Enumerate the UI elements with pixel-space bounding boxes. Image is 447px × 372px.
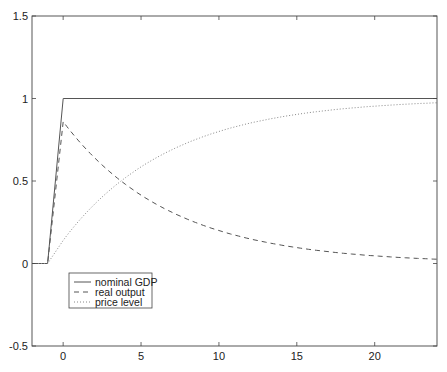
legend-label-price-level: price level bbox=[95, 296, 142, 308]
x-tick-label: 10 bbox=[213, 350, 225, 362]
y-tick-label: 1 bbox=[22, 93, 28, 105]
axes: 05101520-0.500.511.5 bbox=[9, 10, 437, 362]
y-tick-label: 1.5 bbox=[13, 10, 28, 22]
y-tick-label: -0.5 bbox=[9, 340, 28, 352]
x-tick-label: 15 bbox=[291, 350, 303, 362]
series-price-level bbox=[32, 103, 437, 264]
legend: nominal GDP real output price level bbox=[69, 273, 157, 308]
y-tick-label: 0 bbox=[22, 258, 28, 270]
line-chart: 05101520-0.500.511.5 nominal GDP real ou… bbox=[0, 0, 447, 372]
y-tick-label: 0.5 bbox=[13, 175, 28, 187]
x-tick-label: 5 bbox=[138, 350, 144, 362]
x-tick-label: 20 bbox=[369, 350, 381, 362]
series-nominal-gdp bbox=[32, 99, 437, 264]
series-layer bbox=[32, 99, 437, 264]
series-real-output bbox=[32, 122, 437, 264]
x-tick-label: 0 bbox=[60, 350, 66, 362]
